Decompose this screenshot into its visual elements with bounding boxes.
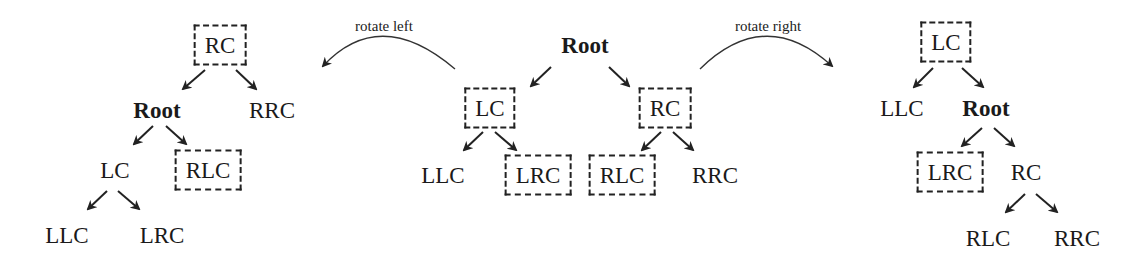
edge-lc-llc bbox=[464, 132, 483, 150]
rotate-left-arrow bbox=[323, 36, 455, 69]
rotate-right-arrow bbox=[700, 36, 832, 69]
node-rc: RC bbox=[194, 25, 247, 66]
edge-root-rlc bbox=[166, 126, 186, 144]
edge-rc-rrc bbox=[236, 70, 256, 89]
edge-root-lc bbox=[531, 67, 551, 86]
node-lrc: LRC bbox=[505, 155, 572, 196]
edge-lc-llc bbox=[914, 68, 933, 87]
edge-root-lc bbox=[134, 126, 153, 144]
edge-lc-lrc bbox=[495, 132, 516, 150]
edge-root-lrc bbox=[962, 128, 982, 146]
node-lrc: LRC bbox=[131, 217, 194, 254]
node-rlc: RLC bbox=[957, 220, 1020, 257]
edge-rc-rrc bbox=[1036, 194, 1057, 212]
edge-rc-root bbox=[183, 70, 205, 89]
edge-rc-rlc bbox=[1006, 194, 1025, 212]
node-root: Root bbox=[953, 90, 1018, 127]
node-lc: LC bbox=[920, 22, 971, 63]
node-root: Root bbox=[552, 27, 617, 64]
node-rlc: RLC bbox=[175, 150, 242, 191]
node-rrc: RRC bbox=[1045, 220, 1109, 257]
node-lc: LC bbox=[464, 88, 515, 129]
edge-root-rc bbox=[994, 128, 1014, 146]
edge-lc-root bbox=[962, 68, 983, 87]
edge-rc-rrc bbox=[673, 132, 693, 150]
node-lc: LC bbox=[91, 152, 138, 189]
edge-lc-llc bbox=[88, 191, 107, 209]
node-rrc: RRC bbox=[683, 157, 747, 194]
edge-rc-rlc bbox=[642, 132, 661, 150]
edge-lc-lrc bbox=[118, 191, 139, 209]
node-rlc: RLC bbox=[589, 155, 656, 196]
node-rc: RC bbox=[639, 88, 692, 129]
rotate-right-caption: rotate right bbox=[735, 18, 801, 35]
node-llc: LLC bbox=[871, 90, 932, 127]
rotate-left-caption: rotate left bbox=[355, 18, 413, 35]
node-lrc: LRC bbox=[917, 152, 984, 193]
node-rrc: RRC bbox=[240, 92, 304, 129]
node-rc: RC bbox=[1002, 154, 1051, 191]
edge-root-rc bbox=[609, 67, 629, 86]
node-root: Root bbox=[124, 92, 189, 129]
node-llc: LLC bbox=[412, 157, 473, 194]
node-llc: LLC bbox=[36, 217, 97, 254]
